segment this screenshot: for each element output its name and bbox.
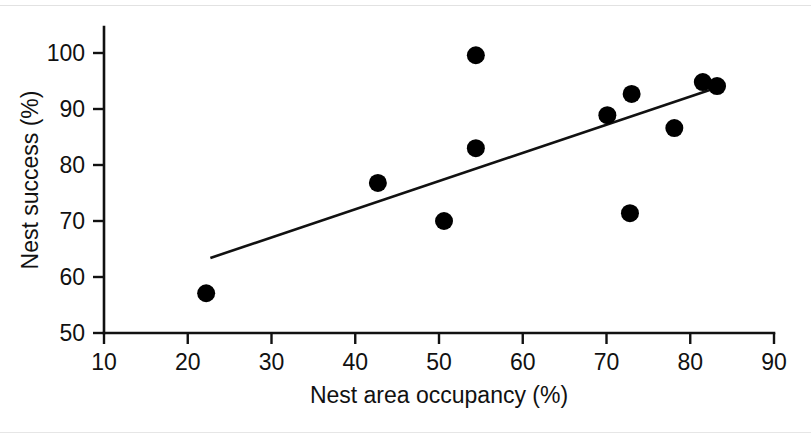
y-tick-label: 90 <box>59 96 85 122</box>
x-axis-title: Nest area occupancy (%) <box>310 382 568 408</box>
x-tick-label: 90 <box>761 349 787 375</box>
y-tick-label: 70 <box>59 208 85 234</box>
x-tick-label: 50 <box>426 349 452 375</box>
x-tick-group: 102030405060708090 <box>91 333 787 375</box>
scatter-plot: 5060708090100 102030405060708090 Nest ar… <box>0 0 811 439</box>
y-tick-label: 50 <box>59 320 85 346</box>
data-point <box>467 46 485 64</box>
x-tick-label: 10 <box>91 349 117 375</box>
trend-line-group <box>210 87 718 258</box>
data-point <box>435 212 453 230</box>
data-point <box>621 204 639 222</box>
y-tick-group: 5060708090100 <box>47 40 104 346</box>
data-point <box>197 284 215 302</box>
y-tick-label: 60 <box>59 264 85 290</box>
figure-container: 5060708090100 102030405060708090 Nest ar… <box>0 0 811 439</box>
y-axis: 5060708090100 <box>47 27 104 346</box>
y-tick-label: 80 <box>59 152 85 178</box>
x-axis: 102030405060708090 <box>91 333 787 375</box>
data-point <box>665 119 683 137</box>
data-point <box>708 77 726 95</box>
x-tick-label: 30 <box>259 349 285 375</box>
data-point <box>623 85 641 103</box>
data-point <box>369 174 387 192</box>
x-tick-label: 60 <box>510 349 536 375</box>
y-axis-title: Nest success (%) <box>17 91 43 270</box>
y-tick-label: 100 <box>47 40 85 66</box>
x-tick-label: 40 <box>342 349 368 375</box>
x-tick-label: 80 <box>677 349 703 375</box>
data-point <box>598 106 616 124</box>
regression-trend-line <box>210 87 718 258</box>
data-point <box>467 139 485 157</box>
x-tick-label: 20 <box>175 349 201 375</box>
x-tick-label: 70 <box>594 349 620 375</box>
